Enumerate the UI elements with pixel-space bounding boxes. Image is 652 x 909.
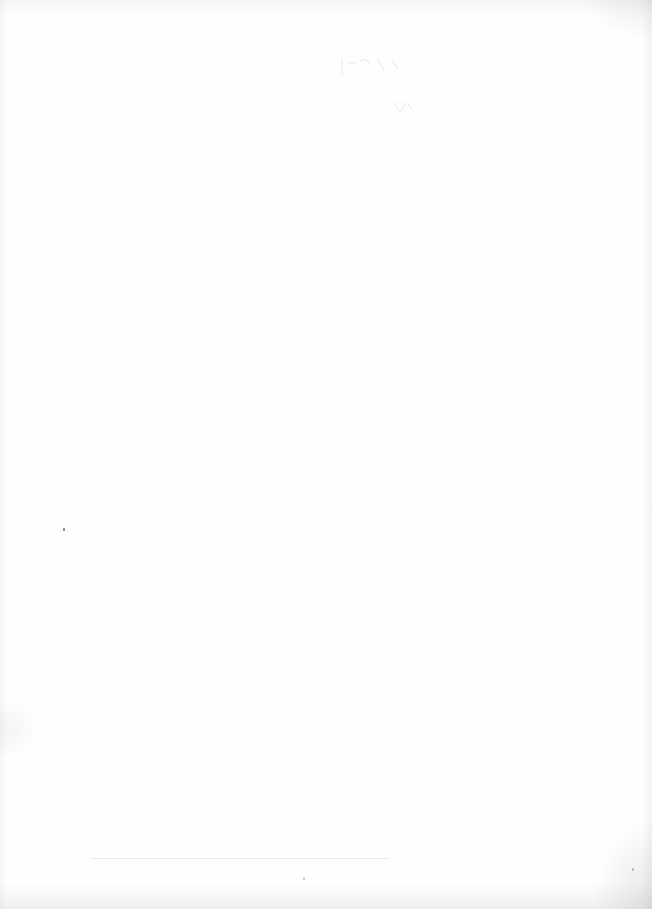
dust-speck (63, 528, 65, 531)
scan-smudge-left (0, 699, 40, 759)
scan-corner-bottom-right (592, 819, 652, 909)
scan-edge-bottom (0, 883, 652, 909)
bleed-through-marks-secondary (392, 100, 414, 114)
dust-speck (303, 877, 305, 880)
blank-scanned-page (0, 0, 652, 909)
scan-corner-top-right (582, 0, 652, 40)
faint-scan-line (90, 858, 390, 859)
bleed-through-marks (338, 55, 408, 79)
dust-speck (632, 868, 634, 871)
scan-edge-top (0, 0, 652, 14)
scan-edge-left (0, 0, 6, 909)
scan-edge-right (642, 0, 652, 909)
